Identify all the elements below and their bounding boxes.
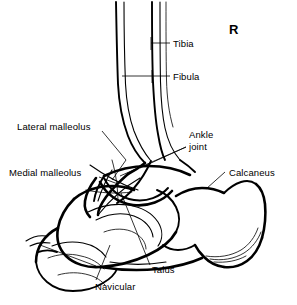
fibula-bone-outline: [116, 2, 151, 163]
side-marker-right: R: [229, 22, 238, 37]
ankle-bone-diagram: [0, 0, 297, 305]
label-fibula: Fibula: [173, 71, 199, 82]
anatomy-figure: R Tibia Fibula Lateral malleolus Medial …: [0, 0, 297, 305]
leader-navicular: [96, 245, 110, 280]
label-talus: Talus: [152, 264, 175, 275]
leader-calcaneus: [206, 172, 225, 189]
label-ankle-joint-line1: Ankle: [189, 129, 213, 140]
label-ankle-joint-line2: joint: [189, 141, 207, 152]
label-lateral-malleolus: Lateral malleolus: [17, 121, 91, 132]
label-navicular: Navicular: [95, 281, 136, 292]
label-calcaneus: Calcaneus: [229, 167, 275, 178]
label-medial-malleolus: Medial malleolus: [9, 167, 81, 178]
label-tibia: Tibia: [173, 38, 194, 49]
